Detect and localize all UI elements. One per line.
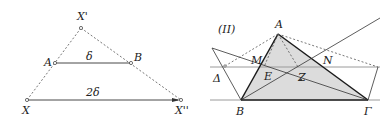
point-x — [25, 98, 28, 101]
figure-title: (II) — [218, 23, 235, 36]
label-delta-segment: δ — [86, 50, 93, 63]
label-m: M — [250, 54, 263, 67]
label-b-left: B — [133, 51, 142, 64]
point-delta — [224, 65, 226, 67]
point-xprime — [79, 26, 82, 29]
label-e: E — [263, 70, 272, 83]
label-2delta-segment: 2δ — [85, 86, 100, 99]
aux-line-right-to-gamma — [368, 67, 378, 100]
label-a-left: A — [43, 56, 52, 69]
label-n: N — [322, 54, 333, 67]
label-xprime: X' — [76, 10, 88, 23]
label-gamma: Γ — [363, 105, 372, 118]
left-figure: X' A B X X'' δ 2δ — [21, 10, 189, 117]
right-figure: (II) A B Γ Δ M N E Z — [210, 18, 380, 118]
label-x: X — [21, 104, 31, 117]
label-z: Z — [297, 71, 306, 84]
label-xdoubleprime: X'' — [174, 104, 189, 117]
point-a-left — [53, 61, 56, 64]
label-a-right: A — [274, 18, 283, 31]
point-xdoubleprime — [179, 98, 182, 101]
label-b-right: B — [235, 105, 244, 118]
geometry-figure: X' A B X X'' δ 2δ (II) — [0, 0, 380, 122]
label-delta: Δ — [212, 72, 221, 85]
point-b-left — [129, 61, 132, 64]
